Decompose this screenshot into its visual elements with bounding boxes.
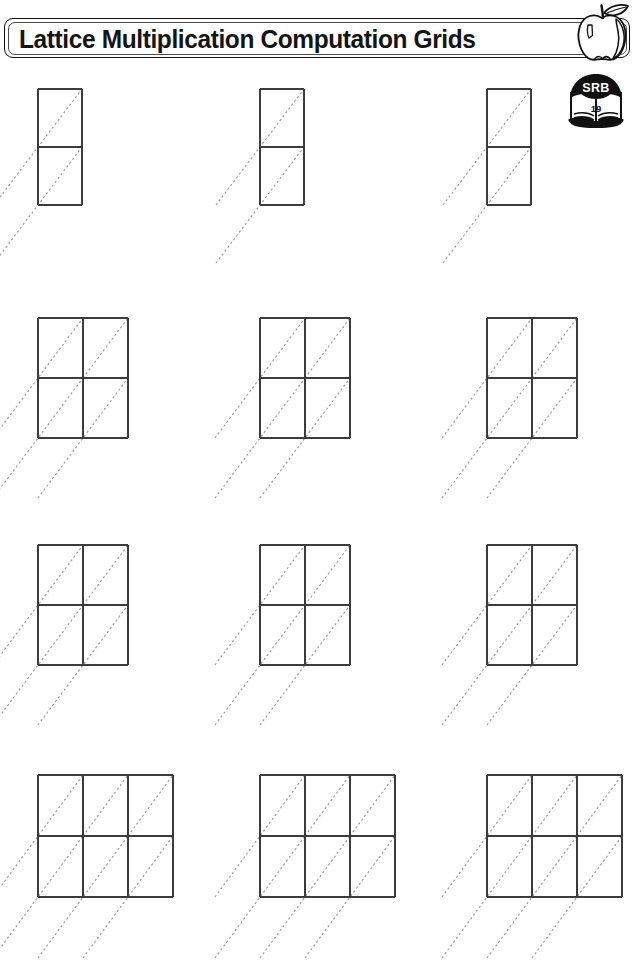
cell-diagonal [532, 775, 577, 836]
cell-diagonal [532, 318, 577, 378]
diagonal-lines [0, 89, 82, 263]
cell-diagonal [532, 545, 577, 605]
page-title: Lattice Multiplication Computation Grids [19, 19, 476, 59]
diagonal-lines [0, 545, 128, 725]
diagonal-lines [442, 545, 577, 725]
lattice-grid-1-1[interactable] [0, 83, 88, 269]
lattice-grid-2-2[interactable] [209, 312, 356, 504]
diagonal-lines [442, 318, 577, 498]
diagonal-lines [215, 318, 350, 498]
srb-label: SRB [582, 81, 610, 95]
lattice-grid-1-2[interactable] [210, 83, 310, 269]
lattice-grid-2-1[interactable] [0, 312, 134, 504]
lattice-grid-1-3[interactable] [437, 83, 537, 269]
cell-diagonal [83, 545, 128, 605]
cell-diagonal [83, 775, 128, 836]
cell-diagonal [305, 318, 350, 378]
grid-lines [38, 89, 82, 205]
page-title-banner: Lattice Multiplication Computation Grids [4, 18, 630, 58]
lattice-grid-2-3[interactable] [436, 312, 583, 504]
lattice-grid-4-2[interactable] [209, 769, 401, 963]
lattice-grid-3-3[interactable] [436, 539, 583, 731]
diagonal-lines [0, 775, 173, 958]
diagonal-lines [0, 318, 128, 498]
grid-lines [38, 775, 173, 897]
lattice-grid-4-1[interactable] [0, 769, 179, 963]
lattice-grid-3-2[interactable] [209, 539, 356, 731]
diagonal-lines [215, 545, 350, 725]
srb-page-number: 19 [591, 103, 602, 114]
lattice-grid-3-1[interactable] [0, 539, 134, 731]
cell-diagonal [305, 775, 350, 836]
grid-lines [260, 775, 395, 897]
cell-diagonal [577, 775, 622, 836]
grid-lines [260, 89, 304, 205]
cell-diagonal [83, 318, 128, 378]
cell-diagonal [128, 775, 173, 836]
apple-icon [566, 2, 638, 64]
cell-diagonal [305, 545, 350, 605]
lattice-grid-4-3[interactable] [436, 769, 628, 963]
grid-lines [487, 89, 531, 205]
cell-diagonal [350, 775, 395, 836]
student-reference-book-icon: SRB 19 [563, 70, 629, 136]
grid-lines [487, 775, 622, 897]
